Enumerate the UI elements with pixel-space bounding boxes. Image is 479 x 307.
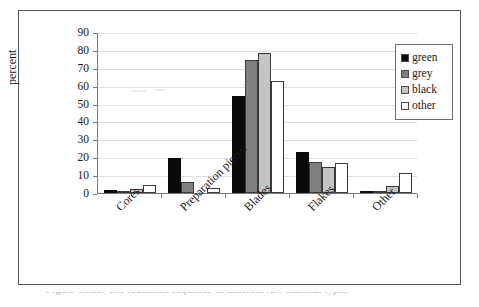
legend-label: black bbox=[412, 84, 437, 96]
x-axis-tick-mark bbox=[289, 194, 290, 198]
y-axis-tick-mark bbox=[93, 194, 97, 195]
bar-black[interactable] bbox=[258, 53, 271, 193]
legend-swatch-green-icon bbox=[401, 54, 409, 62]
scan-artifact bbox=[154, 89, 166, 91]
x-axis-tick-mark bbox=[161, 194, 162, 198]
figure-caption-strip: Figure 10.13. The reduction sequence in … bbox=[18, 292, 461, 306]
bar-group bbox=[98, 33, 162, 193]
x-axis-tick-mark bbox=[225, 194, 226, 198]
legend-item[interactable]: other bbox=[401, 98, 448, 114]
y-axis-tick-label: 80 bbox=[69, 45, 89, 57]
y-axis-tick-label: 60 bbox=[69, 81, 89, 93]
bar-other[interactable] bbox=[271, 81, 284, 193]
y-axis-tick-label: 50 bbox=[69, 99, 89, 111]
bar-green[interactable] bbox=[296, 152, 309, 193]
bar-green[interactable] bbox=[360, 191, 373, 193]
y-axis-tick-label: 0 bbox=[69, 188, 89, 200]
bar-group bbox=[226, 33, 290, 193]
legend-item[interactable]: grey bbox=[401, 66, 448, 82]
bar-other[interactable] bbox=[143, 185, 156, 193]
y-axis-tick-label: 20 bbox=[69, 152, 89, 164]
bar-other[interactable] bbox=[399, 173, 412, 193]
bar-green[interactable] bbox=[104, 190, 117, 193]
legend-swatch-other-icon bbox=[401, 102, 409, 110]
bar-grey[interactable] bbox=[245, 60, 258, 193]
legend-item[interactable]: black bbox=[401, 82, 448, 98]
y-axis-tick-label: 30 bbox=[69, 134, 89, 146]
legend-label: other bbox=[412, 100, 436, 112]
legend-swatch-black-icon bbox=[401, 86, 409, 94]
y-axis-tick-label: 90 bbox=[69, 27, 89, 39]
legend-swatch-grey-icon bbox=[401, 70, 409, 78]
figure-frame: percent 0102030405060708090 CoresPrepara… bbox=[18, 10, 461, 285]
x-axis-tick-mark bbox=[353, 194, 354, 198]
legend-label: green bbox=[412, 52, 438, 64]
bar-green[interactable] bbox=[168, 158, 181, 193]
x-axis-tick-mark bbox=[417, 194, 418, 198]
y-axis-label: percent bbox=[5, 50, 20, 85]
legend: green grey black other bbox=[395, 44, 453, 120]
y-axis-tick-label: 70 bbox=[69, 63, 89, 75]
scan-artifact bbox=[132, 90, 146, 92]
y-axis-tick-label: 10 bbox=[69, 170, 89, 182]
legend-label: grey bbox=[412, 68, 432, 80]
bar-other[interactable] bbox=[335, 163, 348, 193]
legend-item[interactable]: green bbox=[401, 50, 448, 66]
bar-group bbox=[290, 33, 354, 193]
plot-area bbox=[97, 33, 417, 194]
y-axis-tick-label: 40 bbox=[69, 116, 89, 128]
figure-caption: Figure 10.13. The reduction sequence in … bbox=[46, 292, 348, 295]
